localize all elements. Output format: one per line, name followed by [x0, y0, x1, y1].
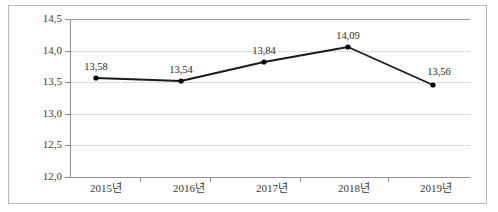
data-label-2016: 13,54 — [151, 64, 211, 75]
data-point-marker-2018 — [345, 44, 350, 49]
data-point-marker-2015 — [93, 75, 98, 80]
line-series-svg — [0, 0, 498, 212]
data-label-2019: 13,56 — [409, 66, 469, 77]
chart-figure: 14,5 14,0 13,5 13,0 12,5 12,0 2015년 2016… — [0, 0, 498, 212]
data-point-marker-2016 — [178, 78, 183, 83]
data-point-marker-2017 — [261, 59, 266, 64]
data-point-marker-2019 — [430, 82, 435, 87]
data-label-2015: 13,58 — [66, 61, 126, 72]
data-label-2017: 13,84 — [234, 45, 294, 56]
data-label-2018: 14,09 — [318, 30, 378, 41]
